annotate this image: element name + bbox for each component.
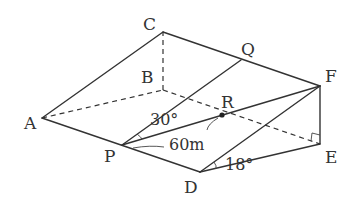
prism-diagram: C B A P D E F Q R 30° 60m 18° [0,0,358,208]
label-P: P [104,146,115,166]
label-F: F [325,66,337,86]
angle-label-18: 18° [225,155,253,174]
length-leader-left [133,146,164,148]
label-B: B [141,67,154,87]
edge-DF [200,86,320,172]
length-label-60m: 60m [169,135,205,154]
edge-AB [42,90,163,118]
right-angle-marker [311,133,320,141]
label-Q: Q [241,39,255,59]
point-R-dot [219,112,224,117]
angle-label-30: 30° [150,110,178,129]
label-A: A [23,113,37,133]
angle-arc-30 [137,134,142,139]
label-E: E [325,147,337,167]
edge-DE [200,144,320,172]
label-D: D [184,177,198,197]
label-C: C [143,14,156,34]
label-R: R [221,92,235,112]
